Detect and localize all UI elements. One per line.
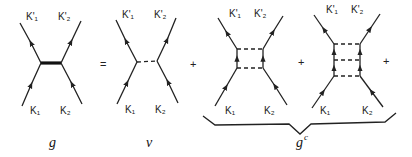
label-k2-prime: K'₂	[254, 8, 267, 19]
fermion-line-top-right	[263, 16, 283, 49]
caption-v: v	[146, 135, 153, 150]
fermion-line-top-right	[157, 18, 176, 61]
label-k1: K₁	[125, 104, 136, 115]
label-k2: K₂	[362, 105, 373, 116]
fermion-line-top-right	[360, 14, 380, 44]
panel-g: K'₁ K'₂ K₁ K₂ g	[20, 11, 82, 150]
fermion-line-bottom-left	[312, 76, 334, 108]
bare-interaction-line	[137, 61, 157, 62]
underbrace	[203, 113, 396, 134]
fermion-line-bottom-right	[263, 68, 287, 105]
label-k2: K₂	[60, 105, 71, 116]
fermion-line-bottom-right	[157, 61, 178, 103]
fermion-line-bottom-right	[61, 63, 82, 104]
label-k1: K₁	[30, 105, 41, 116]
label-k1: K₁	[225, 105, 236, 116]
label-k2: K₂	[264, 105, 275, 116]
panel-ladder-3: K'₁ K'₂ K₁ K₂	[312, 4, 383, 116]
label-k1: K₁	[320, 105, 331, 116]
caption-gc-superscript: c	[304, 132, 308, 142]
label-k2-prime: K'₂	[154, 9, 167, 20]
label-k1-prime: K'₁	[229, 8, 242, 19]
caption-gc: g	[296, 135, 303, 150]
label-k2-prime: K'₂	[58, 11, 71, 22]
fermion-line-top-left	[218, 18, 237, 49]
label-k1-prime: K'₁	[122, 9, 135, 20]
panel-ladder-2: K'₁ K'₂ K₁ K₂	[215, 8, 287, 116]
fermion-line-top-left	[20, 23, 41, 63]
fermion-line-bottom-right	[360, 76, 383, 107]
label-k1-prime: K'₁	[326, 4, 339, 15]
fermion-line-top-left	[116, 20, 137, 62]
plus-sign-2: +	[298, 56, 304, 68]
label-k2-prime: K'₂	[351, 4, 364, 15]
fermion-line-bottom-left	[215, 68, 237, 106]
label-k2: K₂	[155, 104, 166, 115]
diagram-canvas: K'₁ K'₂ K₁ K₂ g = K'₁ K'₂ K₁ K₂ v + K'₁ …	[0, 0, 412, 157]
fermion-line-bottom-left	[117, 62, 137, 104]
equals-sign: =	[100, 58, 106, 70]
plus-sign-3: +	[383, 55, 389, 67]
fermion-line-top-left	[314, 15, 334, 44]
plus-sign-1: +	[190, 58, 196, 70]
panel-v: K'₁ K'₂ K₁ K₂ v	[116, 9, 178, 150]
caption-g: g	[49, 135, 56, 150]
label-k1-prime: K'₁	[26, 11, 39, 22]
fermion-line-top-right	[61, 21, 81, 63]
fermion-line-bottom-left	[22, 63, 41, 106]
